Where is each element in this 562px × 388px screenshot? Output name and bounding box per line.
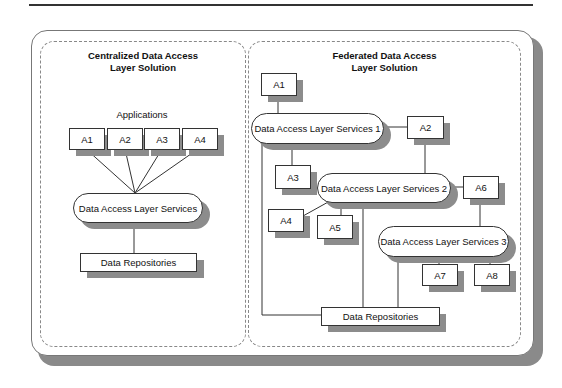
right-app-a2: A2 xyxy=(407,116,444,139)
right-app-a6: A6 xyxy=(463,176,499,199)
right-app-a8: A8 xyxy=(474,264,510,286)
left-app-a3: A3 xyxy=(144,128,180,150)
left-app-a4: A4 xyxy=(182,128,218,150)
right-app-a5: A5 xyxy=(317,215,353,239)
left-services: Data Access Layer Services xyxy=(73,193,203,223)
right-services-3: Data Access Layer Services 3 xyxy=(378,226,509,257)
right-app-a3: A3 xyxy=(275,165,311,189)
left-repositories: Data Repositories xyxy=(80,253,197,272)
left-app-a2: A2 xyxy=(107,128,143,150)
left-app-a1: A1 xyxy=(69,128,105,150)
right-services-1: Data Access Layer Services 1 xyxy=(251,113,384,144)
right-repositories: Data Repositories xyxy=(321,307,440,326)
right-app-a1: A1 xyxy=(261,73,297,96)
right-app-a7: A7 xyxy=(422,264,458,286)
right-services-2: Data Access Layer Services 2 xyxy=(317,173,451,203)
right-app-a4: A4 xyxy=(268,209,304,232)
